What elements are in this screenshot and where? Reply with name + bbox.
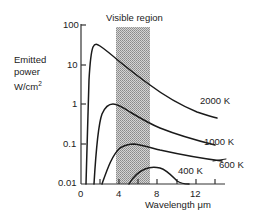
y-tick-10: 10 (67, 59, 78, 70)
x-tick-0: 0 (78, 188, 83, 199)
y-tick-0.1: 0.1 (63, 138, 76, 149)
y-axis-title-line2: power (14, 66, 46, 78)
visible-region-label: Visible region (106, 12, 163, 23)
x-tick-8: 8 (154, 188, 159, 199)
x-axis-title: Wavelength μm (145, 199, 211, 210)
y-axis-title: Emitted power W/cm2 (14, 54, 46, 93)
series-label-600k: 600 K (219, 159, 244, 170)
x-tick-4: 4 (116, 188, 121, 199)
blackbody-emission-chart (0, 0, 255, 216)
y-axis (81, 24, 86, 184)
y-axis-title-line1: Emitted (14, 54, 46, 66)
visible-region-band (116, 27, 150, 184)
x-tick-12: 12 (190, 188, 201, 199)
series-label-2000k: 2000 K (200, 95, 230, 106)
y-tick-1: 1 (72, 98, 77, 109)
y-axis-title-line3: W/cm2 (14, 78, 46, 93)
series-label-400k: 400 K (178, 165, 203, 176)
y-tick-100: 100 (63, 19, 79, 30)
series-label-1000k: 1000 K (204, 136, 234, 147)
curve-2000k (86, 44, 217, 184)
y-tick-0.01: 0.01 (58, 177, 77, 188)
